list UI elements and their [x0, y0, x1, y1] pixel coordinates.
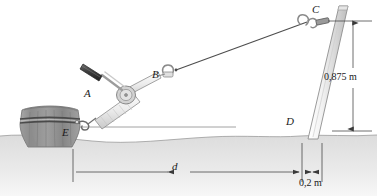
label-dimension-offset: 0,2 m	[299, 178, 322, 188]
cable-BC	[176, 22, 307, 70]
come-along-winch	[80, 64, 161, 129]
label-point-e: E	[62, 127, 69, 138]
label-point-c: C	[312, 4, 319, 15]
tree-stump	[20, 106, 80, 147]
label-point-a: A	[84, 88, 91, 99]
label-dimension-d: d	[172, 161, 178, 172]
label-point-b: B	[152, 69, 159, 80]
shackle-connector-B	[158, 65, 177, 77]
diagram-svg	[0, 0, 377, 196]
label-dimension-height: 0,875 m	[324, 72, 357, 82]
shackle-connector-C	[298, 15, 330, 28]
winch-handle-grip	[80, 64, 102, 81]
label-point-d: D	[286, 116, 294, 127]
figure-canvas: A B C D E d 0,875 m 0,2 m	[0, 0, 377, 196]
